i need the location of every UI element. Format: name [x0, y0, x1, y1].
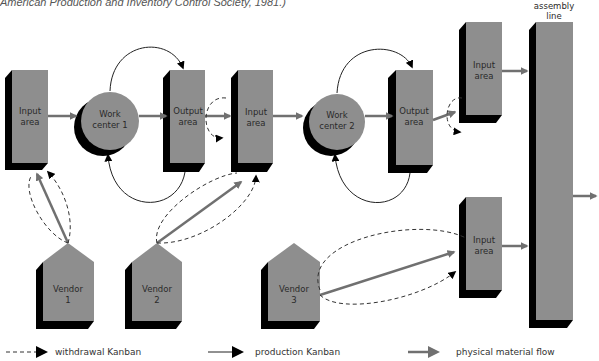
input-area-1-label-1: Input: [19, 106, 42, 116]
input-area-4: Input area: [459, 197, 502, 298]
input-area-2-label-1: Input: [245, 107, 268, 117]
work-center-1-label-1: Work: [99, 109, 121, 119]
physical-flow-arrow-icon: [428, 346, 440, 358]
legend-production-label: production Kanban: [255, 347, 340, 357]
work-center-1-label-2: center 1: [92, 120, 127, 130]
withdrawal-arrow-icon: [36, 346, 48, 358]
output-area-2: Output area: [388, 70, 433, 173]
vendor-1: Vendor 1: [36, 243, 94, 329]
vendor-3-label-2: 3: [291, 295, 296, 305]
legend: withdrawal Kanban production Kanban phys…: [6, 346, 555, 358]
output-area-1: Output area: [163, 70, 205, 172]
assembly-line: assembly line: [529, 1, 574, 328]
legend-production: production Kanban: [208, 346, 340, 358]
assembly-line-label-2: line: [546, 11, 561, 21]
work-center-2-label-2: center 2: [319, 121, 354, 131]
vendor-1-label-1: Vendor: [53, 284, 83, 294]
input-area-3-label-1: Input: [473, 60, 496, 70]
legend-withdrawal: withdrawal Kanban: [6, 346, 141, 358]
legend-physical: physical material flow: [408, 346, 555, 358]
input-area-3: Input area: [459, 22, 502, 123]
work-center-2: Work center 2: [303, 94, 365, 156]
output-area-1-label-2: area: [179, 117, 198, 127]
vendor-2: Vendor 2: [125, 243, 182, 329]
kanban-diagram: Input area Work center 1 Output area Inp…: [0, 0, 599, 361]
vendor-2-label-1: Vendor: [142, 284, 172, 294]
output-area-2-label-1: Output: [399, 106, 429, 116]
input-area-1-label-2: area: [21, 117, 40, 127]
legend-withdrawal-label: withdrawal Kanban: [55, 347, 141, 357]
input-area-2: Input area: [231, 70, 273, 172]
input-area-3-label-2: area: [475, 71, 494, 81]
vendor-3: Vendor 3: [261, 243, 320, 329]
input-area-1: Input area: [5, 70, 48, 170]
input-area-4-label-1: Input: [473, 235, 496, 245]
input-area-2-label-2: area: [247, 118, 266, 128]
vendor-1-label-2: 1: [65, 295, 70, 305]
output-area-2-label-2: area: [405, 117, 424, 127]
work-center-2-label-1: Work: [326, 110, 348, 120]
legend-physical-label: physical material flow: [456, 347, 555, 357]
assembly-line-label-1: assembly: [534, 1, 574, 11]
output-area-1-label-1: Output: [173, 106, 203, 116]
production-arrow-icon: [232, 346, 244, 358]
vendor-2-label-2: 2: [154, 295, 159, 305]
work-center-1: Work center 1: [74, 92, 139, 156]
input-area-4-label-2: area: [475, 246, 494, 256]
vendor-3-label-1: Vendor: [279, 284, 309, 294]
